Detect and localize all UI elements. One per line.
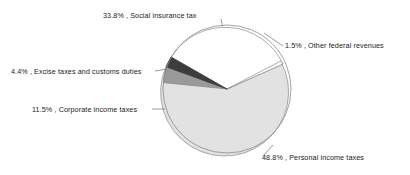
pie-label-social-insurance-tax: 33.8% , Social insurance tax (103, 11, 197, 21)
pie-chart-canvas (0, 0, 410, 175)
pie-chart: 33.8% , Social insurance tax 1.5% , Othe… (0, 0, 410, 175)
pie-label-other-federal-revenues: 1.5% , Other federal revenues (285, 41, 384, 51)
pie-label-corporate-income-taxes: 11.5% , Corporate income taxes (32, 105, 137, 115)
pie-label-personal-income-taxes: 48.8% , Personal income taxes (262, 153, 364, 163)
pie-label-excise-taxes-and-customs-duties: 4.4% , Excise taxes and customs duties (11, 67, 141, 77)
